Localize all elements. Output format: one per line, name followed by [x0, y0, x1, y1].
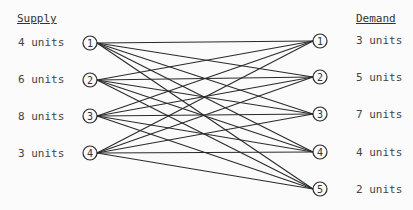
- demand-node-5: 5: [313, 182, 327, 196]
- edges: [97, 41, 313, 189]
- svg-text:1: 1: [317, 36, 323, 47]
- supply-node-2: 2: [83, 73, 97, 87]
- supply-node-3: 3: [83, 109, 97, 123]
- supply-node-1: 1: [83, 36, 97, 50]
- edge: [97, 41, 313, 116]
- transport-network: 123412345: [0, 0, 413, 210]
- demand-node-3: 3: [313, 107, 327, 121]
- demand-node-1: 1: [313, 34, 327, 48]
- svg-text:3: 3: [317, 109, 323, 120]
- edge: [97, 153, 313, 189]
- demand-node-4: 4: [313, 145, 327, 159]
- edge: [97, 152, 313, 153]
- svg-text:4: 4: [317, 147, 323, 158]
- supply-node-4: 4: [83, 146, 97, 160]
- svg-text:2: 2: [87, 75, 93, 86]
- svg-text:4: 4: [87, 148, 93, 159]
- svg-text:3: 3: [87, 111, 93, 122]
- svg-text:5: 5: [317, 184, 323, 195]
- svg-text:2: 2: [317, 72, 323, 83]
- edge: [97, 41, 313, 43]
- svg-text:1: 1: [87, 38, 93, 49]
- edge: [97, 41, 313, 80]
- demand-node-2: 2: [313, 70, 327, 84]
